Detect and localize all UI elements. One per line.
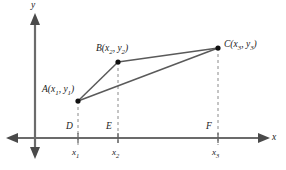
- segment-bc: [118, 48, 218, 62]
- point-b-label: B(x2, y2): [96, 44, 128, 56]
- x-axis-right-arrow-icon: [258, 133, 270, 143]
- point-a-args: (x1, y1): [48, 84, 74, 94]
- point-b-args: (x2, y2): [102, 43, 128, 53]
- point-c-label: C(x3, y3): [224, 40, 257, 52]
- x-tick-label-x3: x3: [212, 148, 219, 159]
- point-a-name: A: [42, 84, 48, 94]
- segment-ac: [78, 48, 218, 101]
- point-c-dot: [215, 45, 220, 50]
- x-axis-label: x: [272, 133, 276, 143]
- x-axis-left-arrow-icon: [6, 133, 18, 143]
- foot-label-f: F: [206, 122, 212, 132]
- segment-ab: [78, 62, 118, 101]
- point-c-args: (x3, y3): [230, 39, 256, 49]
- y-axis-up-arrow-icon: [30, 13, 40, 25]
- x-tick-label-x2: x2: [112, 148, 119, 159]
- y-axis-down-arrow-icon: [30, 147, 40, 159]
- point-b-name: B: [96, 43, 102, 53]
- point-b-dot: [115, 59, 120, 64]
- x-tick-label-x1: x1: [72, 148, 79, 159]
- foot-label-d: D: [66, 122, 73, 132]
- geometry-figure: y x A(x1, y1) B(x2, y2) C(x3, y3) D E F …: [0, 0, 286, 170]
- point-a-label: A(x1, y1): [42, 85, 74, 97]
- y-axis-label: y: [31, 1, 35, 11]
- point-a-dot: [75, 98, 80, 103]
- foot-label-e: E: [106, 122, 112, 132]
